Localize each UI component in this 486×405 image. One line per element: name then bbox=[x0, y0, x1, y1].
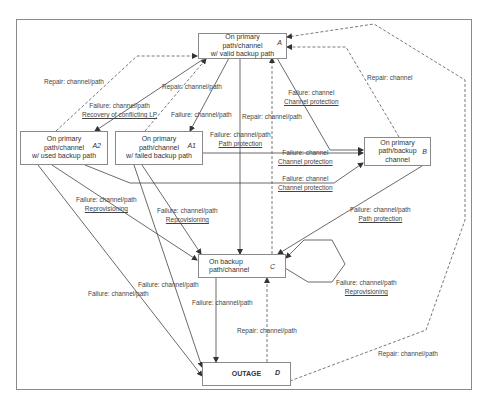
state-c-tag: C bbox=[270, 263, 275, 272]
state-b: On primary path/backup channel B bbox=[364, 137, 431, 166]
state-a1: On primary path/channel w/ failed backup… bbox=[115, 131, 203, 165]
label-failure-a-a1: Failure: channel/path bbox=[171, 110, 232, 119]
state-c: On backup path/channel C bbox=[198, 254, 286, 278]
state-a2-tag: A2 bbox=[92, 142, 101, 151]
state-d-tag: D bbox=[275, 369, 280, 378]
label-failure-channel-protection-a2-b: Failure: channel Channel protection bbox=[278, 174, 333, 192]
state-a2: On primary path/channel w/ used backup p… bbox=[20, 131, 108, 165]
state-a1-label: On primary path/channel w/ failed backup… bbox=[126, 135, 192, 161]
label-failure-a1-d: Failure: channel/path bbox=[138, 280, 199, 289]
label-repair-a1-a: Repair: channel/path bbox=[162, 82, 222, 91]
label-repair-channel-b-a: Repair: channel bbox=[367, 73, 413, 82]
label-failure-channel-protection-a1-b: Failure: channel Channel protection bbox=[278, 148, 333, 166]
label-failure-reprovisioning-a2-c: Failure: channel/path Reprovisioning bbox=[76, 195, 137, 213]
state-b-label: On primary path/backup channel bbox=[378, 139, 416, 165]
label-repair-a2-a: Repair: channel/path bbox=[44, 77, 104, 86]
state-a-tag: A bbox=[277, 39, 282, 48]
state-a1-tag: A1 bbox=[187, 142, 196, 151]
label-repair-d-c: Repair: channel/path bbox=[237, 326, 297, 335]
label-failure-c-d: Failure: channel/path bbox=[192, 298, 253, 307]
label-failure-path-protection-a-c: Failure: channel/path Path protection bbox=[210, 130, 271, 148]
label-repair-d-a: Repair: channel/path bbox=[378, 349, 438, 358]
label-failure-path-protection-b-c: Failure: channel/path Path protection bbox=[350, 205, 411, 223]
label-failure-reprovisioning-a1-c: Failure: channel/path Reprovisioning bbox=[157, 206, 218, 224]
state-d-label: OUTAGE bbox=[232, 370, 261, 379]
label-failure-reprovisioning-c-self: Failure: channel/path Reprovisioning bbox=[336, 278, 397, 296]
state-b-tag: B bbox=[422, 148, 427, 157]
label-failure-channel-protection-a-b: Failure: channel Channel protection bbox=[284, 88, 339, 106]
state-a: On primary path/channel w/ valid backup … bbox=[198, 33, 287, 59]
label-failure-recovery-lp: Failure: channel/path Recovery of confli… bbox=[82, 101, 157, 119]
state-c-label: On backup path/channel bbox=[209, 258, 249, 275]
label-repair-c-a: Repair: channel/path bbox=[242, 112, 302, 121]
label-failure-a2-d: Failure: channel/path bbox=[88, 289, 149, 298]
state-a2-label: On primary path/channel w/ used backup p… bbox=[32, 135, 96, 161]
state-a-label: On primary path/channel w/ valid backup … bbox=[211, 33, 274, 59]
state-d: OUTAGE D bbox=[202, 362, 291, 386]
